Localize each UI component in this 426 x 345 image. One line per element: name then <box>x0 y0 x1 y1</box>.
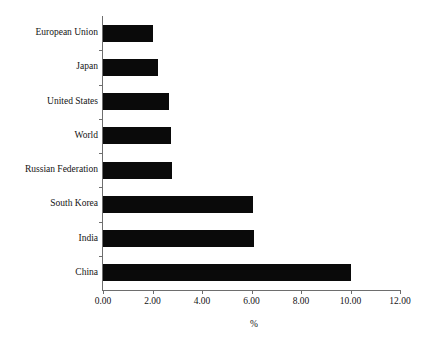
x-tick-label: 6.00 <box>227 295 277 307</box>
category-label-united-states: United States <box>2 96 98 107</box>
y-tick <box>99 119 103 120</box>
category-label-south-korea: South Korea <box>2 198 98 209</box>
bar-japan <box>103 59 158 76</box>
category-label-european-union: European Union <box>2 27 98 38</box>
category-label-world: World <box>2 130 98 141</box>
x-tick-label: 0.00 <box>78 295 128 307</box>
y-tick <box>99 222 103 223</box>
x-tick-label: 10.00 <box>326 295 376 307</box>
x-tick-label: 8.00 <box>276 295 326 307</box>
x-tick <box>351 290 352 294</box>
x-tick-label: 2.00 <box>128 295 178 307</box>
category-axis-labels: European UnionJapanUnited StatesWorldRus… <box>0 16 98 290</box>
category-label-japan: Japan <box>2 61 98 72</box>
plot-area <box>103 16 400 290</box>
x-tick <box>301 290 302 294</box>
x-axis-title: % <box>0 319 426 329</box>
category-label-india: India <box>2 233 98 244</box>
x-tick <box>400 290 401 294</box>
y-tick <box>99 153 103 154</box>
bar-china <box>103 264 351 281</box>
bar-chart: European UnionJapanUnited StatesWorldRus… <box>0 0 426 345</box>
bar-india <box>103 230 254 247</box>
y-tick <box>99 187 103 188</box>
bar-world <box>103 127 171 144</box>
bar-russian-federation <box>103 162 172 179</box>
x-tick <box>202 290 203 294</box>
y-tick <box>99 50 103 51</box>
x-tick <box>103 290 104 294</box>
y-tick <box>99 256 103 257</box>
x-tick <box>252 290 253 294</box>
bar-european-union <box>103 25 153 42</box>
x-tick-label: 4.00 <box>177 295 227 307</box>
bar-united-states <box>103 93 169 110</box>
x-tick <box>153 290 154 294</box>
x-tick-label: 12.00 <box>375 295 425 307</box>
bar-south-korea <box>103 196 253 213</box>
category-label-china: China <box>2 267 98 278</box>
category-label-russian-federation: Russian Federation <box>2 164 98 175</box>
x-axis-title-text: % <box>250 319 258 329</box>
y-tick <box>99 85 103 86</box>
